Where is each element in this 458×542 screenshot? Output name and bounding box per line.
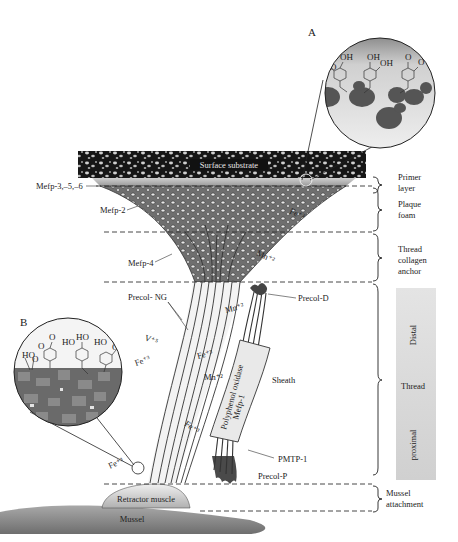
region-anchor-line1: Thread	[398, 244, 423, 254]
chem-a-o2: O	[405, 52, 412, 62]
mussel-adhesion-diagram: Surface substrate	[0, 0, 458, 542]
chem-b-o1: O	[49, 332, 56, 342]
magnifier-a: OH O OH OH O O	[316, 36, 440, 151]
fe3-left-label: Fe⁺³	[133, 353, 151, 368]
region-anchor-line2: collagen	[398, 255, 428, 265]
chem-a-oh2: OH	[367, 52, 380, 62]
primer-layer	[92, 178, 356, 186]
region-attachment-line2: attachment	[386, 499, 424, 509]
mefp-4-label: Mefp-4	[128, 258, 154, 268]
mefp-3-5-6-label: Mefp-3,–5,–6	[36, 181, 83, 191]
precol-ng-pointer	[168, 302, 188, 330]
surface-substrate-label: Surface substrate	[200, 160, 259, 170]
region-primer-line2: layer	[398, 183, 415, 193]
region-anchor-line3: anchor	[398, 266, 421, 276]
v5-label: V⁺⁵	[143, 332, 159, 346]
sheath-label: Sheath	[272, 375, 296, 385]
chem-a-oh3: OH	[380, 58, 393, 68]
region-braces	[373, 177, 382, 512]
mussel-label: Mussel	[120, 514, 145, 524]
chem-b-ho2: HO	[76, 332, 89, 342]
precol-p-label: Precol-P	[258, 471, 288, 481]
magnifier-b: O O HO HO HO HO O O	[10, 318, 130, 428]
panel-b-label: B	[20, 316, 27, 328]
chem-b-ho3: HO	[94, 337, 107, 347]
magnifier-b-spot	[132, 462, 144, 474]
chem-b-o3: O	[32, 354, 39, 364]
distal-label: Distal	[408, 324, 418, 345]
surface-substrate: Surface substrate	[78, 151, 366, 178]
panel-a-label: A	[308, 26, 316, 38]
region-attachment-line1: Mussel	[386, 488, 411, 498]
precol-d-label: Precol-D	[298, 293, 329, 303]
proximal-label: proximal	[408, 429, 418, 460]
chem-a-o3: O	[418, 57, 425, 67]
region-primer-line1: Primer	[398, 172, 421, 182]
mefp-2-label: Mefp-2	[100, 205, 126, 215]
mn2-mid-label: Mn⁺²	[204, 372, 223, 382]
precol-ng-label: Precol- NG	[128, 292, 167, 302]
region-plaque-line2: foam	[398, 210, 416, 220]
chem-b-ho1: HO	[62, 337, 75, 347]
retractor-muscle-label: Retractor muscle	[117, 494, 175, 504]
pmtp-1-label: PMTP-1	[278, 454, 307, 464]
region-plaque-line1: Plaque	[398, 199, 421, 209]
region-thread-label: Thread	[401, 381, 426, 391]
chem-b-o2: O	[38, 341, 45, 351]
